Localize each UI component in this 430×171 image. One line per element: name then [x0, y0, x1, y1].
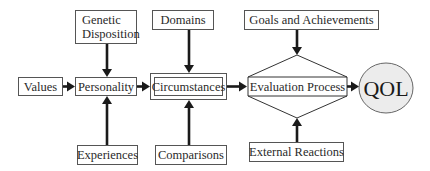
arrow-goals-to-evaluation: [292, 30, 302, 55]
node-comparisons: Comparisons: [156, 146, 227, 165]
qol-label: QOL: [363, 76, 408, 101]
arrow-domains-to-circumstances: [184, 30, 194, 73]
values-label: Values: [24, 80, 57, 94]
circumstances-label: Circumstances: [152, 80, 226, 94]
node-circumstances: Circumstances: [151, 74, 227, 100]
genetic-label-line1: Genetic: [82, 13, 121, 27]
node-qol: QOL: [359, 63, 413, 113]
personality-label: Personality: [78, 80, 135, 94]
node-domains: Domains: [153, 11, 214, 30]
evaluation-label: Evaluation Process: [250, 80, 346, 94]
domains-label: Domains: [160, 13, 205, 27]
node-external-reactions: External Reactions: [249, 143, 344, 162]
goals-label: Goals and Achievements: [249, 13, 373, 27]
arrow-experiences-to-personality: [102, 96, 112, 145]
genetic-label-line2: Disposition: [82, 27, 140, 41]
node-experiences: Experiences: [77, 146, 138, 165]
arrow-personality-to-circumstances: [137, 82, 150, 92]
node-evaluation-process: Evaluation Process: [248, 55, 347, 118]
arrowhead-icon: [239, 82, 247, 92]
arrowhead-icon: [142, 82, 150, 92]
arrowhead-icon: [102, 69, 112, 77]
node-values: Values: [19, 78, 63, 96]
arrow-genetic-to-personality: [102, 44, 112, 77]
comparisons-label: Comparisons: [158, 148, 224, 162]
arrow-evaluation-to-qol: [347, 82, 359, 92]
arrowhead-icon: [351, 82, 359, 92]
arrow-circumstances-to-evaluation: [227, 82, 247, 92]
arrowhead-icon: [292, 47, 302, 55]
node-personality: Personality: [76, 78, 137, 96]
external-label: External Reactions: [249, 145, 344, 159]
arrowhead-icon: [292, 118, 302, 126]
arrow-external-to-evaluation: [292, 118, 302, 142]
node-genetic-disposition: Genetic Disposition: [76, 11, 141, 44]
arrowhead-icon: [184, 100, 194, 108]
arrowhead-icon: [67, 82, 75, 92]
arrow-values-to-personality: [63, 82, 75, 92]
arrowhead-icon: [102, 96, 112, 104]
arrowhead-icon: [184, 65, 194, 73]
node-goals-achievements: Goals and Achievements: [245, 11, 379, 30]
experiences-label: Experiences: [77, 148, 138, 162]
qol-diagram: Genetic Disposition Domains Goals and Ac…: [0, 0, 430, 171]
arrow-comparisons-to-circumstances: [184, 100, 194, 145]
